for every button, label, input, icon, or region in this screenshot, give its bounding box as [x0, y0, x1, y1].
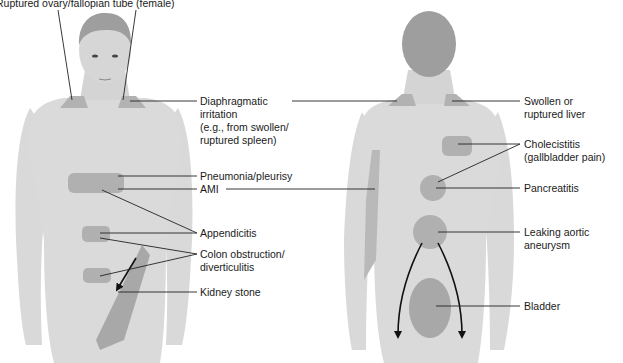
- label-ruptured-ovary: Ruptured ovary/fallopian tube (female): [0, 0, 175, 9]
- label-bladder: Bladder: [524, 300, 561, 312]
- label-line: ruptured liver: [524, 108, 586, 120]
- label-ami: AMI: [200, 183, 219, 195]
- back-head: [402, 11, 456, 77]
- label-pancreatitis: Pancreatitis: [524, 182, 579, 194]
- label-line: ruptured spleen): [200, 134, 276, 146]
- label-line: (e.g., from swollen/: [200, 121, 289, 133]
- back-bladder-region: [409, 278, 451, 338]
- leader-ovary-left: [58, 10, 72, 100]
- front-colon-region: [83, 268, 111, 283]
- referred-pain-diagram: Ruptured ovary/fallopian tube (female) D…: [0, 0, 623, 363]
- front-body-figure: [16, 13, 193, 363]
- label-appendicitis: Appendicitis: [200, 227, 257, 239]
- back-body-figure: [344, 11, 514, 363]
- label-line: diverticulitis: [200, 261, 254, 273]
- label-diaphragmatic-irritation: Diaphragmatic irritation (e.g., from swo…: [200, 95, 289, 146]
- front-appendicitis-region: [82, 226, 110, 242]
- label-swollen-liver: Swollen or ruptured liver: [524, 95, 586, 120]
- label-line: Cholecistitis: [524, 138, 580, 150]
- back-right-shoulder-pain: [444, 94, 470, 106]
- front-chest-pain-region: [68, 173, 124, 193]
- label-line: Colon obstruction/: [200, 248, 285, 260]
- front-right-eye: [112, 54, 118, 57]
- label-line: aneurysm: [524, 239, 570, 251]
- label-line: Swollen or: [524, 95, 574, 107]
- back-gallbladder-region: [442, 136, 472, 156]
- label-cholecistitis: Cholecistitis (gallbladder pain): [524, 138, 605, 163]
- label-line: Diaphragmatic: [200, 95, 268, 107]
- label-colon-obstruction: Colon obstruction/ diverticulitis: [200, 248, 285, 273]
- label-leaking-aortic-aneurysm: Leaking aortic aneurysm: [524, 226, 589, 251]
- label-kidney-stone: Kidney stone: [200, 286, 261, 298]
- label-line: (gallbladder pain): [524, 151, 605, 163]
- label-pneumonia: Pneumonia/pleurisy: [200, 170, 293, 182]
- label-line: Leaking aortic: [524, 226, 589, 238]
- front-left-eye: [92, 54, 98, 57]
- label-line: irritation: [200, 108, 238, 120]
